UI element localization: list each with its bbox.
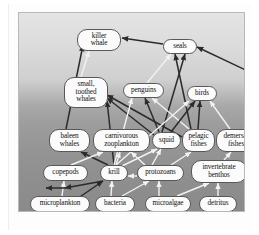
node-baleen-whales[interactable]: baleen whales xyxy=(49,129,90,152)
node-killer-whale[interactable]: killer whale xyxy=(77,29,121,51)
node-carnivorous-zooplankton[interactable]: carnivorous zooplankton xyxy=(93,129,150,152)
food-web-figure: killer whalesealssmall, toothed whalespe… xyxy=(18,12,245,212)
edge-penguins-to-seals xyxy=(147,54,171,83)
node-penguins[interactable]: penguins xyxy=(123,83,164,98)
node-demersal-fishes[interactable]: demersal fishes xyxy=(216,129,245,152)
edge-bacteria-to-krill xyxy=(111,181,112,196)
edge-krill-to-baleen-whales xyxy=(81,152,108,165)
edge-microalgae-to-invertebrate-benthos xyxy=(177,183,209,196)
node-birds[interactable]: birds xyxy=(187,86,217,101)
edge-demersal-fishes-b-to-seals xyxy=(197,47,245,73)
edge-invertebrate-benthos-to-demersal-fishes xyxy=(224,152,231,160)
node-bacteria[interactable]: bacteria xyxy=(95,196,135,212)
node-pelagic-fishes[interactable]: pelagic fishes xyxy=(182,129,215,152)
edge-squid-to-penguins xyxy=(145,98,159,132)
node-copepods[interactable]: copepods xyxy=(43,165,88,181)
figure-page: killer whalesealssmall, toothed whalespe… xyxy=(0,0,259,235)
node-detritus[interactable]: detritus xyxy=(199,196,237,212)
edge-small-toothed-whales-to-killer-whale xyxy=(81,51,89,77)
edge-pelagic-fishes-to-birds xyxy=(198,101,200,129)
node-squid[interactable]: squid xyxy=(152,132,181,149)
edge-squid-to-seals xyxy=(162,54,185,132)
node-small-toothed-whales[interactable]: small, toothed whales xyxy=(64,77,108,108)
node-microplankton[interactable]: microplankton xyxy=(30,196,90,212)
node-krill[interactable]: krill xyxy=(100,165,128,181)
edge-demersal-fishes-to-birds xyxy=(210,101,230,129)
node-microalgae[interactable]: microalgae xyxy=(145,196,191,212)
edge-copepods-to-carnivorous-zooplankton xyxy=(71,152,103,165)
node-seals[interactable]: seals xyxy=(163,39,197,54)
edge-seals-to-killer-whale xyxy=(122,38,163,44)
edge-bacteria-to-protozoans xyxy=(122,181,149,196)
node-protozoans[interactable]: protozoans xyxy=(137,165,184,181)
node-invertebrate-benthos[interactable]: invertebrate benthos xyxy=(191,160,245,183)
edge-protozoans-to-pelagic-fishes xyxy=(171,152,191,165)
